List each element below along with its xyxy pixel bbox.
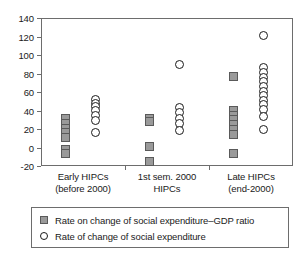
data-point-square [61, 149, 70, 158]
y-tick-label: 20 [24, 125, 34, 134]
data-point-square [229, 72, 238, 81]
y-tick-label: 80 [24, 69, 34, 78]
x-tick-mark [209, 166, 210, 170]
data-point-square [229, 149, 238, 158]
x-group-label: Early HIPCs(before 2000) [41, 171, 125, 194]
y-tick-label: -20 [21, 162, 34, 171]
data-point-square [145, 117, 154, 126]
legend-item-circle: Rate of change of social expenditure [40, 228, 288, 244]
x-tick-mark [125, 166, 126, 170]
x-group-label-line2: (before 2000) [41, 183, 125, 195]
x-group-label-line2: (end-2000) [209, 183, 293, 195]
y-tick-label: 40 [24, 106, 34, 115]
plot-area [41, 18, 293, 166]
x-group-label: Late HIPCs(end-2000) [209, 171, 293, 194]
x-axis-labels: Early HIPCs(before 2000)1st sem. 2000HIP… [41, 171, 293, 201]
y-tick-label: 60 [24, 88, 34, 97]
data-point-circle [175, 126, 184, 135]
y-tick-label: 100 [18, 51, 34, 60]
data-point-square [61, 133, 70, 142]
data-point-circle [175, 60, 184, 69]
y-tick-mark [37, 166, 41, 167]
square-marker-icon [40, 216, 48, 224]
circle-marker-icon [40, 232, 48, 240]
data-point-circle [91, 128, 100, 137]
data-point-square [145, 142, 154, 151]
chart-legend: Rate on change of social expenditure–GDP… [31, 207, 289, 248]
x-group-label-line1: 1st sem. 2000 [125, 171, 209, 183]
chart-figure: -20020406080100120140 Early HIPCs(before… [0, 0, 307, 254]
y-axis: -20020406080100120140 [0, 18, 38, 166]
data-point-circle [259, 112, 268, 121]
y-tick-label: 0 [29, 143, 34, 152]
y-tick-label: 120 [18, 32, 34, 41]
x-group-label-line1: Early HIPCs [41, 171, 125, 183]
data-point-square [145, 157, 154, 166]
x-group-label-line2: HIPCs [125, 183, 209, 195]
y-tick-label: 140 [18, 14, 34, 23]
x-group-label: 1st sem. 2000HIPCs [125, 171, 209, 194]
data-point-square [229, 130, 238, 139]
legend-label-square: Rate on change of social expenditure–GDP… [55, 215, 254, 226]
legend-item-square: Rate on change of social expenditure–GDP… [40, 212, 288, 228]
legend-label-circle: Rate of change of social expenditure [55, 231, 206, 242]
data-point-circle [259, 125, 268, 134]
data-point-circle [259, 31, 268, 40]
x-group-label-line1: Late HIPCs [209, 171, 293, 183]
data-point-circle [91, 116, 100, 125]
